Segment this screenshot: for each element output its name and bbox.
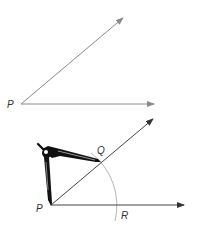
bottom-angle-figure: Q P R <box>36 119 184 221</box>
bottom-ray-upper <box>51 119 153 205</box>
point-r-label: R <box>121 210 128 221</box>
top-vertex-label: P <box>7 99 14 110</box>
top-angle-figure: P <box>7 18 154 110</box>
construction-arc <box>91 153 117 221</box>
bottom-vertex-label: P <box>36 203 43 214</box>
point-q-label: Q <box>97 145 105 156</box>
geometry-diagram: P Q P R <box>0 0 197 233</box>
top-ray-upper <box>21 18 123 104</box>
